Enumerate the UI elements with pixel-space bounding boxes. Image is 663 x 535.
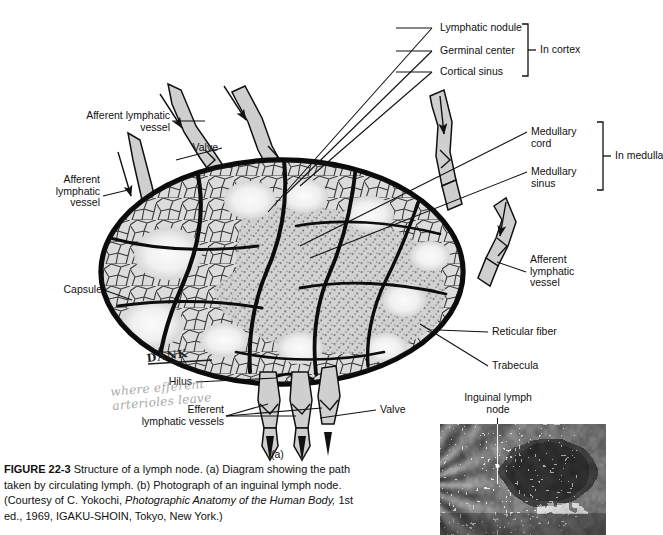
label-lymphatic-nodule: Lymphatic nodule xyxy=(440,22,522,34)
label-valve-top: Valve xyxy=(150,142,218,154)
panel-a-marker: (a) xyxy=(271,448,284,460)
label-capsule: Capsule xyxy=(40,284,102,296)
label-afferent-lymphatic-vessel-top: Afferent lymphatic vessel xyxy=(60,110,170,133)
label-in-medulla: In medulla xyxy=(615,150,663,162)
bracket-medulla xyxy=(597,122,611,190)
label-medullary-cord: Medullary cord xyxy=(531,126,577,149)
inguinal-lymph-node-photograph xyxy=(440,424,606,535)
label-cortical-sinus: Cortical sinus xyxy=(440,66,503,78)
caption-book-title: Photographic Anatomy of the Human Body, xyxy=(125,494,335,506)
label-in-cortex: In cortex xyxy=(540,44,580,56)
figure-caption: FIGURE 22-3 Structure of a lymph node. (… xyxy=(4,462,356,524)
label-trabecula: Trabecula xyxy=(492,360,538,372)
label-inguinal-lymph-node: Inguinal lymph node xyxy=(440,392,556,415)
label-medullary-sinus: Medullary sinus xyxy=(531,166,577,189)
label-germinal-center: Germinal center xyxy=(440,45,515,57)
label-afferent-lymphatic-vessel-right: Afferent lymphatic vessel xyxy=(530,254,574,289)
label-afferent-lymphatic-vessel-left: Afferent lymphatic vessel xyxy=(8,174,100,209)
bracket-cortex xyxy=(522,24,536,76)
caption-figure-number: FIGURE 22-3 xyxy=(4,463,71,475)
label-reticular-fiber: Reticular fiber xyxy=(492,326,557,338)
label-valve-bottom: Valve xyxy=(380,404,406,416)
